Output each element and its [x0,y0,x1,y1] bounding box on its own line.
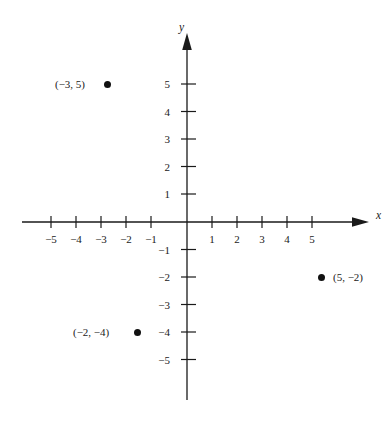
y-tick-label-3: 3 [142,134,170,145]
x-tick-label--5: −5 [37,234,65,245]
y-tick-label--3: −3 [140,300,170,311]
x-tick-label--4: −4 [62,234,90,245]
y-tick-label--1: −1 [140,245,170,256]
x-tick-label--3: −3 [87,234,115,245]
y-tick-label-4: 4 [142,107,170,118]
y-tick-label-2: 2 [142,162,170,173]
data-point-label-1: (−3, 5) [55,79,85,90]
data-point-dot-2 [318,274,325,281]
data-point-label-3: (−2, −4) [73,327,109,338]
x-tick-label-3: 3 [248,234,276,245]
y-axis-label: y [179,22,184,34]
y-tick-label--4: −4 [140,327,170,338]
x-tick-label-1: 1 [198,234,226,245]
y-tick-label-1: 1 [142,189,170,200]
axes-svg [0,0,389,421]
data-point-label-2: (5, −2) [333,272,363,283]
y-tick-label--2: −2 [140,272,170,283]
x-axis-label: x [376,210,381,222]
x-axis-arrowhead [352,217,369,227]
data-point-dot-3 [134,329,141,336]
data-point-dot-1 [104,81,111,88]
y-axis-arrowhead [182,33,192,50]
x-tick-label-2: 2 [223,234,251,245]
y-tick-label-5: 5 [142,79,170,90]
x-tick-label--2: −2 [112,234,140,245]
coordinate-plane-figure: x y −5 −4 −3 −2 −1 1 2 3 4 5 5 4 3 2 1 −… [0,0,389,421]
x-tick-label-4: 4 [273,234,301,245]
x-tick-label-5: 5 [298,234,326,245]
y-tick-label--5: −5 [140,355,170,366]
